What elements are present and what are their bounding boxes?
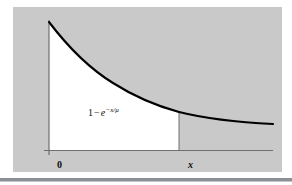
bottom-divider-highlight xyxy=(0,181,292,182)
curve-formula-annotation: 1−e−x/μ xyxy=(88,106,119,118)
x-axis-tick-label-origin: 0 xyxy=(57,159,62,170)
formula-minus-sign: − xyxy=(93,107,101,118)
cdf-shaded-area xyxy=(49,22,179,150)
formula-exponent: −x/μ xyxy=(105,106,118,114)
exponential-decay-plot xyxy=(13,7,282,172)
figure-root: 1−e−x/μ 0 x xyxy=(0,0,292,185)
plot-panel: 1−e−x/μ 0 x xyxy=(13,7,282,172)
x-axis-tick-label-x: x xyxy=(188,159,193,170)
